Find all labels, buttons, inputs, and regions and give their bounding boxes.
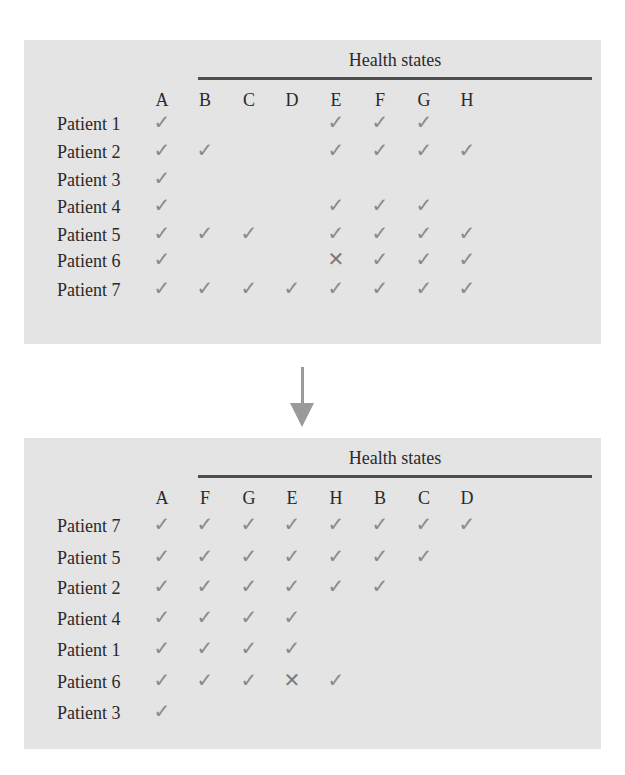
row-label: Patient 4 bbox=[57, 197, 121, 218]
column-header-b: B bbox=[190, 90, 220, 111]
arrow-down-icon bbox=[301, 367, 304, 407]
check-icon: ✓ bbox=[365, 138, 395, 162]
row-label: Patient 2 bbox=[57, 578, 121, 599]
check-icon: ✓ bbox=[452, 247, 482, 271]
column-header-g: G bbox=[234, 488, 264, 509]
column-header-a: A bbox=[147, 90, 177, 111]
check-icon: ✓ bbox=[321, 221, 351, 245]
original-matrix-panel: Health statesABCDEFGHPatient 1✓✓✓✓Patien… bbox=[24, 40, 601, 344]
check-icon: ✓ bbox=[365, 110, 395, 134]
column-header-f: F bbox=[365, 90, 395, 111]
header-rule bbox=[198, 475, 592, 478]
check-icon: ✓ bbox=[190, 221, 220, 245]
health-states-title: Health states bbox=[198, 448, 592, 469]
check-icon: ✓ bbox=[190, 605, 220, 629]
check-icon: ✓ bbox=[277, 636, 307, 660]
check-icon: ✓ bbox=[147, 247, 177, 271]
check-icon: ✓ bbox=[147, 221, 177, 245]
health-states-title: Health states bbox=[198, 50, 592, 71]
row-label: Patient 3 bbox=[57, 170, 121, 191]
check-icon: ✓ bbox=[321, 138, 351, 162]
check-icon: ✓ bbox=[147, 193, 177, 217]
check-icon: ✓ bbox=[147, 276, 177, 300]
cross-icon: ✕ bbox=[321, 247, 351, 271]
check-icon: ✓ bbox=[147, 166, 177, 190]
check-icon: ✓ bbox=[277, 512, 307, 536]
column-header-e: E bbox=[277, 488, 307, 509]
check-icon: ✓ bbox=[365, 574, 395, 598]
check-icon: ✓ bbox=[365, 512, 395, 536]
check-icon: ✓ bbox=[452, 221, 482, 245]
header-rule bbox=[198, 77, 592, 80]
row-label: Patient 5 bbox=[57, 548, 121, 569]
check-icon: ✓ bbox=[147, 605, 177, 629]
check-icon: ✓ bbox=[277, 544, 307, 568]
check-icon: ✓ bbox=[409, 221, 439, 245]
check-icon: ✓ bbox=[321, 544, 351, 568]
check-icon: ✓ bbox=[321, 276, 351, 300]
check-icon: ✓ bbox=[452, 138, 482, 162]
check-icon: ✓ bbox=[190, 544, 220, 568]
column-header-c: C bbox=[234, 90, 264, 111]
check-icon: ✓ bbox=[234, 276, 264, 300]
row-label: Patient 6 bbox=[57, 251, 121, 272]
check-icon: ✓ bbox=[409, 512, 439, 536]
check-icon: ✓ bbox=[147, 574, 177, 598]
check-icon: ✓ bbox=[452, 276, 482, 300]
check-icon: ✓ bbox=[321, 668, 351, 692]
check-icon: ✓ bbox=[190, 636, 220, 660]
row-label: Patient 7 bbox=[57, 280, 121, 301]
row-label: Patient 3 bbox=[57, 703, 121, 724]
check-icon: ✓ bbox=[365, 544, 395, 568]
column-header-d: D bbox=[452, 488, 482, 509]
column-header-g: G bbox=[409, 90, 439, 111]
check-icon: ✓ bbox=[234, 574, 264, 598]
check-icon: ✓ bbox=[409, 276, 439, 300]
column-header-e: E bbox=[321, 90, 351, 111]
check-icon: ✓ bbox=[409, 110, 439, 134]
check-icon: ✓ bbox=[321, 574, 351, 598]
check-icon: ✓ bbox=[365, 247, 395, 271]
column-header-b: B bbox=[365, 488, 395, 509]
check-icon: ✓ bbox=[190, 574, 220, 598]
check-icon: ✓ bbox=[147, 544, 177, 568]
check-icon: ✓ bbox=[147, 668, 177, 692]
column-header-d: D bbox=[277, 90, 307, 111]
column-header-f: F bbox=[190, 488, 220, 509]
reordered-matrix-panel: Health statesAFGEHBCDPatient 7✓✓✓✓✓✓✓✓Pa… bbox=[24, 438, 601, 749]
column-header-h: H bbox=[452, 90, 482, 111]
check-icon: ✓ bbox=[409, 193, 439, 217]
check-icon: ✓ bbox=[409, 247, 439, 271]
check-icon: ✓ bbox=[234, 636, 264, 660]
check-icon: ✓ bbox=[321, 193, 351, 217]
check-icon: ✓ bbox=[190, 276, 220, 300]
row-label: Patient 1 bbox=[57, 640, 121, 661]
check-icon: ✓ bbox=[234, 512, 264, 536]
check-icon: ✓ bbox=[277, 605, 307, 629]
check-icon: ✓ bbox=[190, 668, 220, 692]
check-icon: ✓ bbox=[277, 276, 307, 300]
check-icon: ✓ bbox=[190, 138, 220, 162]
check-icon: ✓ bbox=[147, 138, 177, 162]
cross-icon: ✕ bbox=[277, 668, 307, 692]
check-icon: ✓ bbox=[365, 221, 395, 245]
column-header-c: C bbox=[409, 488, 439, 509]
check-icon: ✓ bbox=[277, 574, 307, 598]
check-icon: ✓ bbox=[234, 544, 264, 568]
row-label: Patient 5 bbox=[57, 225, 121, 246]
column-header-h: H bbox=[321, 488, 351, 509]
check-icon: ✓ bbox=[365, 276, 395, 300]
check-icon: ✓ bbox=[147, 699, 177, 723]
check-icon: ✓ bbox=[365, 193, 395, 217]
check-icon: ✓ bbox=[409, 138, 439, 162]
row-label: Patient 7 bbox=[57, 516, 121, 537]
check-icon: ✓ bbox=[234, 221, 264, 245]
check-icon: ✓ bbox=[234, 605, 264, 629]
row-label: Patient 4 bbox=[57, 609, 121, 630]
check-icon: ✓ bbox=[147, 512, 177, 536]
check-icon: ✓ bbox=[190, 512, 220, 536]
check-icon: ✓ bbox=[147, 110, 177, 134]
column-header-a: A bbox=[147, 488, 177, 509]
row-label: Patient 2 bbox=[57, 142, 121, 163]
check-icon: ✓ bbox=[321, 110, 351, 134]
